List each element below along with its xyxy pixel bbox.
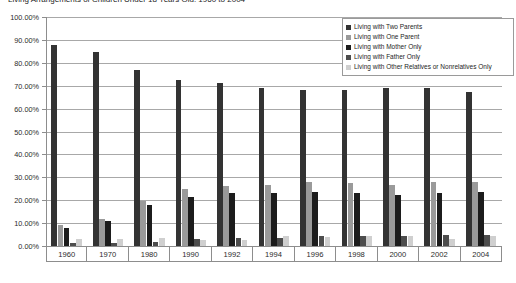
bar xyxy=(424,88,430,246)
x-axis-tick-label: 2002 xyxy=(419,247,460,261)
x-axis-tick-label: 2004 xyxy=(461,247,502,261)
bar xyxy=(312,192,318,246)
bar xyxy=(466,92,472,246)
x-axis-tick-label: 1992 xyxy=(212,247,253,261)
bar xyxy=(159,238,165,246)
bar xyxy=(484,235,490,246)
legend-label: Living with Two Parents xyxy=(354,24,422,31)
bar xyxy=(472,182,478,246)
legend-swatch-icon xyxy=(346,45,351,50)
x-axis-tick-label: 1970 xyxy=(87,247,128,261)
legend-label: Living with Father Only xyxy=(354,54,420,61)
bar xyxy=(51,45,57,246)
bar-chart: Living Arrangements of Children Under 18… xyxy=(0,0,516,283)
bar xyxy=(401,236,407,246)
bar xyxy=(93,52,99,246)
legend-item[interactable]: Living with Two Parents xyxy=(346,22,508,32)
x-axis-tick-label: 1960 xyxy=(46,247,87,261)
bar-group xyxy=(253,17,294,246)
bar xyxy=(188,197,194,246)
bar-group xyxy=(129,17,170,246)
y-axis-tick-label: 40.00% xyxy=(14,150,39,159)
bar xyxy=(389,185,395,246)
bar xyxy=(366,236,372,246)
x-axis-tick-label: 1996 xyxy=(295,247,336,261)
bar xyxy=(449,239,455,246)
chart-title-text: Living Arrangements of Children Under 18… xyxy=(8,0,245,4)
bar xyxy=(147,205,153,246)
bar xyxy=(223,186,229,246)
x-axis-tick-label: 1994 xyxy=(253,247,294,261)
x-axis-tick-label: 1990 xyxy=(170,247,211,261)
x-axis-tick-label: 2000 xyxy=(378,247,419,261)
bar xyxy=(277,238,283,246)
legend-swatch-icon xyxy=(346,25,351,30)
y-axis-tick-label: 0.00% xyxy=(18,242,39,251)
bar xyxy=(300,90,306,246)
bar xyxy=(117,239,123,246)
bar xyxy=(176,80,182,246)
bar xyxy=(283,236,289,246)
y-axis-tick-label: 30.00% xyxy=(14,173,39,182)
legend-swatch-icon xyxy=(346,65,351,70)
legend-item[interactable]: Living with Other Relatives or Nonrelati… xyxy=(346,62,508,72)
bar xyxy=(182,189,188,246)
bar xyxy=(408,236,414,246)
bar xyxy=(259,88,265,246)
legend-swatch-icon xyxy=(346,35,351,40)
bar xyxy=(229,193,235,246)
bar xyxy=(265,185,271,246)
bar xyxy=(490,236,496,246)
bar xyxy=(478,192,484,246)
bar xyxy=(194,239,200,246)
bar xyxy=(383,88,389,246)
bar xyxy=(306,182,312,246)
bar xyxy=(360,236,366,246)
bar xyxy=(395,195,401,246)
legend-label: Living with Other Relatives or Nonrelati… xyxy=(354,64,492,71)
bar xyxy=(99,219,105,246)
bar xyxy=(76,239,82,246)
y-axis-tick-label: 10.00% xyxy=(14,219,39,228)
bar xyxy=(348,183,354,246)
y-axis-tick-label: 70.00% xyxy=(14,81,39,90)
bar-group xyxy=(87,17,128,246)
bar xyxy=(58,225,64,246)
bar-group xyxy=(295,17,336,246)
legend-item[interactable]: Living with Mother Only xyxy=(346,42,508,52)
bar xyxy=(325,237,331,246)
x-axis-tick-label: 1980 xyxy=(129,247,170,261)
y-axis-tick-label: 50.00% xyxy=(14,127,39,136)
bar-group xyxy=(46,17,87,246)
bar xyxy=(271,193,277,246)
chart-legend: Living with Two ParentsLiving with One P… xyxy=(342,18,514,76)
bar xyxy=(134,70,140,246)
y-axis-tick-label: 60.00% xyxy=(14,104,39,113)
bar xyxy=(64,228,70,246)
legend-item[interactable]: Living with Father Only xyxy=(346,52,508,62)
bar-group xyxy=(212,17,253,246)
bar xyxy=(140,201,146,246)
bar xyxy=(319,236,325,246)
chart-title: Living Arrangements of Children Under 18… xyxy=(0,0,516,9)
y-axis-tick-label: 20.00% xyxy=(14,196,39,205)
bar xyxy=(105,221,111,246)
y-axis-tick-label: 80.00% xyxy=(14,58,39,67)
bar xyxy=(217,83,223,246)
legend-item[interactable]: Living with One Parent xyxy=(346,32,508,42)
legend-label: Living with Mother Only xyxy=(354,44,422,51)
bar-group xyxy=(170,17,211,246)
legend-swatch-icon xyxy=(346,55,351,60)
bar xyxy=(431,182,437,246)
bar xyxy=(443,235,449,246)
y-axis-labels: 0.00%10.00%20.00%30.00%40.00%50.00%60.00… xyxy=(0,17,44,246)
bar xyxy=(236,238,242,246)
bar xyxy=(437,193,443,246)
y-axis-tick-label: 90.00% xyxy=(14,35,39,44)
x-axis-labels: 1960197019801990199219941996199820002002… xyxy=(46,246,502,262)
y-axis-tick-label: 100.00% xyxy=(10,13,39,22)
legend-label: Living with One Parent xyxy=(354,34,419,41)
bar xyxy=(354,193,360,246)
x-axis-tick-label: 1998 xyxy=(336,247,377,261)
bar xyxy=(342,90,348,246)
